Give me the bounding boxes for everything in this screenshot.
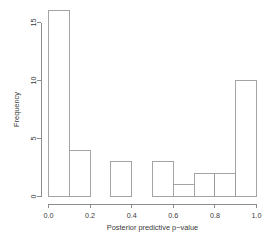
x-axis-tick-label: 0.2 xyxy=(85,211,95,220)
histogram-plot: 0510150.00.20.40.60.81.0Posterior predic… xyxy=(0,0,268,245)
y-axis-tick-label: 15 xyxy=(29,19,38,27)
histogram-bar xyxy=(111,162,132,197)
x-axis-title: Posterior predictive p−value xyxy=(107,223,198,232)
bars-group xyxy=(49,11,257,197)
y-axis-tick-label: 10 xyxy=(29,77,38,85)
histogram-bar xyxy=(49,11,70,197)
histogram-bar xyxy=(173,185,194,197)
x-axis-tick-label: 0.4 xyxy=(127,211,137,220)
histogram-bar xyxy=(69,150,90,196)
histogram-bar xyxy=(236,81,257,197)
x-axis-tick-label: 1.0 xyxy=(252,211,262,220)
histogram-bar xyxy=(153,162,174,197)
histogram-bar xyxy=(215,173,236,196)
chart-canvas: 0510150.00.20.40.60.81.0Posterior predic… xyxy=(0,0,268,245)
y-axis-tick-label: 0 xyxy=(29,195,38,199)
y-axis-tick-label: 5 xyxy=(29,137,38,141)
x-axis-tick-label: 0.0 xyxy=(44,211,54,220)
histogram-bar xyxy=(194,173,215,196)
y-axis-title: Frequency xyxy=(12,92,21,127)
x-axis-tick-label: 0.6 xyxy=(168,211,178,220)
x-axis-tick-label: 0.8 xyxy=(210,211,220,220)
